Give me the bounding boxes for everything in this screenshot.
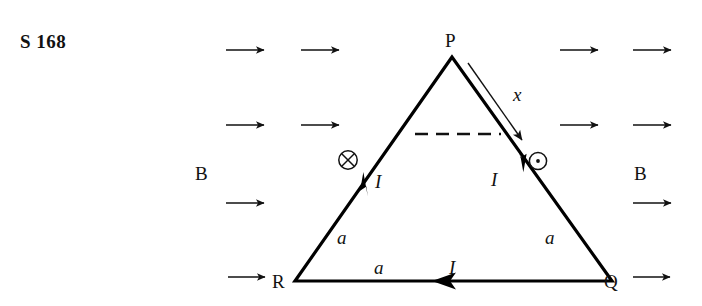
field-label-left: B — [195, 163, 208, 184]
field-label-right: B — [634, 163, 647, 184]
current-label-right: I — [490, 169, 499, 190]
side-label-left: a — [337, 227, 347, 248]
vertex-label-p: P — [445, 30, 456, 51]
into-page-cross-symbol — [339, 151, 357, 169]
side-label-bottom: a — [374, 257, 384, 278]
field-arrows-right — [560, 50, 671, 277]
distance-label-x: x — [512, 84, 522, 105]
question-number-label: S 168 — [20, 31, 66, 53]
side-label-right: a — [545, 227, 555, 248]
vertex-label-q: Q — [604, 271, 618, 292]
current-label-bottom: I — [448, 257, 457, 278]
vertex-label-r: R — [272, 271, 285, 292]
current-label-left: I — [374, 171, 383, 192]
physics-diagram-svg: P R Q x I I I a a a B B — [0, 0, 702, 306]
figure-canvas: P R Q x I I I a a a B B S 168 — [0, 0, 702, 306]
out-of-page-dot-symbol — [529, 152, 546, 169]
